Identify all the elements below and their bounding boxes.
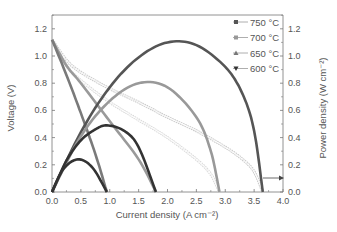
x-tick-label: 1.5 <box>132 196 145 206</box>
legend-label: 700 °C <box>250 32 279 43</box>
y-axis-left-label: Voltage (V) <box>5 85 16 132</box>
x-tick-label: 3.5 <box>248 196 261 206</box>
legend-label: 600 °C <box>250 63 279 74</box>
y2-tick-label: 0.4 <box>288 133 301 143</box>
series-750-c-voltage <box>52 40 263 192</box>
y2-tick-label: 1.2 <box>288 24 301 34</box>
legend-label: 750 °C <box>250 17 279 28</box>
y2-tick-label: 1.0 <box>288 51 301 61</box>
y2-tick-label: 0.8 <box>288 78 301 88</box>
x-tick-label: 0.5 <box>75 196 88 206</box>
y-tick-label: 0.0 <box>34 187 47 197</box>
y2-tick-label: 0.2 <box>288 160 301 170</box>
x-tick-label: 4.0 <box>277 196 290 206</box>
y-tick-label: 0.4 <box>34 133 47 143</box>
x-axis-label: Current density (A cm⁻²) <box>116 209 219 220</box>
legend-label: 650 °C <box>250 48 279 59</box>
y-axis-right-label: Power density (W cm⁻²) <box>317 57 328 158</box>
y-tick-label: 0.6 <box>34 105 47 115</box>
fuel-cell-iv-chart: 0.00.51.01.52.02.53.03.54.0 0.00.20.40.6… <box>0 0 337 232</box>
series-750-c-power <box>52 41 263 192</box>
y2-tick-label: 0.6 <box>288 105 301 115</box>
x-tick-label: 1.0 <box>103 196 116 206</box>
y-tick-label: 0.8 <box>34 78 47 88</box>
y-tick-label: 0.2 <box>34 160 47 170</box>
y2-tick-label: 0.0 <box>288 187 301 197</box>
x-axis-ticks: 0.00.51.01.52.02.53.03.54.0 <box>46 189 290 206</box>
data-series <box>52 40 263 192</box>
x-tick-label: 0.0 <box>46 196 59 206</box>
y-tick-label: 1.2 <box>34 24 47 34</box>
right-axis-arrow <box>263 176 284 181</box>
x-tick-label: 3.0 <box>219 196 232 206</box>
x-tick-label: 2.5 <box>190 196 203 206</box>
y-tick-label: 1.0 <box>34 51 47 61</box>
x-tick-label: 2.0 <box>161 196 174 206</box>
series-600-c-voltage <box>52 40 107 192</box>
legend: 750 °C700 °C650 °C600 °C <box>233 17 279 75</box>
